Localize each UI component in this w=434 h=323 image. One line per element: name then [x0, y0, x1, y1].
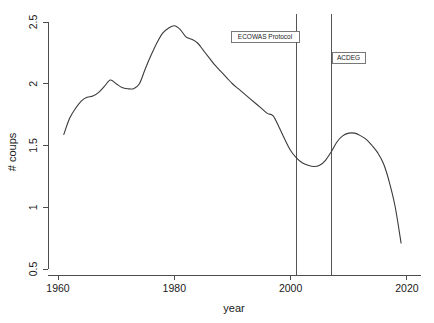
x-axis-title: year [223, 302, 245, 314]
x-tick-label-2020: 2020 [395, 282, 419, 294]
annotation-label-ecowas-protocol: ECOWAS Protocol [238, 33, 293, 40]
annotation-acdeg: ACDEG [332, 52, 365, 63]
y-tick-label-1: 1 [27, 204, 39, 210]
y-axis-title: # coups [6, 132, 18, 171]
y-tick-label-0.5: 0.5 [27, 262, 39, 277]
x-tick-label-2000: 2000 [279, 282, 303, 294]
y-tick-label-2: 2 [27, 81, 39, 87]
plot-canvas: 2.5 2 1.5 1 0.5 # coups 1960 1980 2000 2… [0, 0, 434, 323]
annotation-ecowas-protocol: ECOWAS Protocol [231, 31, 299, 42]
y-tick-label-1.5: 1.5 [27, 138, 39, 153]
y-tick-label-2.5: 2.5 [27, 15, 39, 30]
coup-trend-chart: 2.5 2 1.5 1 0.5 # coups 1960 1980 2000 2… [0, 0, 434, 323]
x-tick-label-1960: 1960 [46, 282, 70, 294]
annotation-label-acdeg: ACDEG [337, 54, 360, 61]
x-tick-label-1980: 1980 [163, 282, 187, 294]
